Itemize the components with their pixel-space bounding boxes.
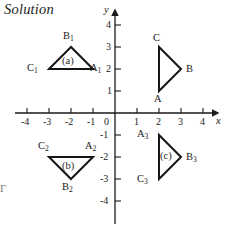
vertex-subscript: 3 xyxy=(144,177,148,186)
vertex-letter: B xyxy=(186,151,193,162)
vertex-label-C3: C3 xyxy=(137,174,148,185)
x-tick-label--1: -1 xyxy=(87,117,95,127)
vertex-subscript: 1 xyxy=(34,66,38,75)
shape-label-b: (b) xyxy=(62,161,74,172)
vertex-label-B3: B3 xyxy=(186,152,197,163)
vertex-label-A3: A3 xyxy=(137,129,148,140)
y-tick-label-3: 3 xyxy=(106,42,111,52)
y-tick-label-2: 2 xyxy=(106,64,111,74)
solution-figure: Solution Γ xyxy=(0,0,228,231)
y-tick-label--3: -3 xyxy=(100,174,108,184)
vertex-letter: C xyxy=(27,62,34,73)
x-tick-label--4: -4 xyxy=(21,117,29,127)
vertex-letter: B xyxy=(63,30,70,41)
x-axis-label: x xyxy=(216,116,221,127)
vertex-label-B: B xyxy=(186,64,193,75)
x-tick-label--2: -2 xyxy=(65,117,73,127)
x-tick-label-2: 2 xyxy=(156,117,161,127)
vertex-label-C2: C2 xyxy=(38,141,49,152)
y-tick-label--1: -1 xyxy=(100,130,108,140)
shape-label-a: (a) xyxy=(62,56,74,67)
y-tick-label--4: -4 xyxy=(100,196,108,206)
x-tick-label-0: 0 xyxy=(104,117,109,127)
y-axis-label: y xyxy=(104,5,109,16)
shape-label-c: (c) xyxy=(160,151,172,162)
vertex-label-C1: C1 xyxy=(27,63,38,74)
vertex-subscript: 2 xyxy=(69,185,73,194)
y-tick-label--2: -2 xyxy=(100,152,108,162)
x-tick-label-1: 1 xyxy=(134,117,139,127)
vertex-letter: C xyxy=(38,140,45,151)
x-tick-label--3: -3 xyxy=(43,117,51,127)
vertex-subscript: 3 xyxy=(145,132,149,141)
x-tick-label-3: 3 xyxy=(178,117,183,127)
vertex-letter: A xyxy=(137,128,145,139)
vertex-letter: C xyxy=(137,173,144,184)
vertex-letter: A xyxy=(90,62,98,73)
triangle-original xyxy=(159,47,181,91)
vertex-label-A: A xyxy=(154,94,162,105)
vertex-subscript: 1 xyxy=(98,66,102,75)
vertex-subscript: 1 xyxy=(70,34,74,43)
coordinate-plane xyxy=(0,0,228,231)
vertex-subscript: 2 xyxy=(93,144,97,153)
vertex-label-B2: B2 xyxy=(62,182,73,193)
x-tick-label-4: 4 xyxy=(200,117,205,127)
y-tick-label-4: 4 xyxy=(106,20,111,30)
vertex-label-C: C xyxy=(153,33,160,44)
vertex-label-B1: B1 xyxy=(63,31,74,42)
y-tick-label-1: 1 xyxy=(107,86,112,96)
vertex-label-A1: A1 xyxy=(90,63,101,74)
vertex-letter: A xyxy=(85,140,93,151)
vertex-subscript: 2 xyxy=(45,144,49,153)
vertex-label-A2: A2 xyxy=(85,141,96,152)
vertex-letter: B xyxy=(62,181,69,192)
vertex-subscript: 3 xyxy=(193,155,197,164)
